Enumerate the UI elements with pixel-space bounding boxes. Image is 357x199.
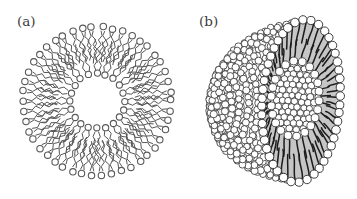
panel-b-label: (b) (199, 13, 218, 29)
figure: (a) (b) (0, 0, 357, 199)
figure-canvas: (a) (b) (0, 0, 357, 199)
panel-a-label: (a) (17, 13, 36, 29)
panel-a-bilayer-cross-section-diagram (20, 23, 175, 179)
panel-b-liposome-cutaway-diagram (206, 13, 350, 189)
